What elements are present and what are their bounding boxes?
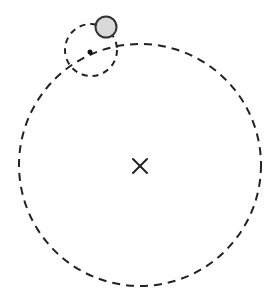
epicycle-center-dot (88, 50, 93, 55)
center-cross-icon (133, 159, 147, 173)
epicycle-diagram (0, 0, 277, 304)
planet-circle (96, 17, 117, 38)
